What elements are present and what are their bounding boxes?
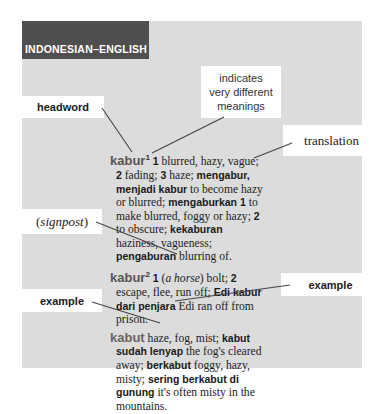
translation-text: escape, flee, run off; [116,286,214,299]
bold-term: berkabut [147,359,191,371]
translation-text: to obscure; [116,223,170,236]
signpost-word: signpost [40,214,83,230]
callout-example-right: example [281,273,380,296]
callout-translation-label: translation [304,133,359,149]
bold-term: kekaburan [170,223,223,235]
entry-kabur-2: kabur2 1 (a horse) bolt; 2 escape, flee,… [110,268,266,327]
callout-headword: headword [22,96,104,118]
translation-text: fading; [122,169,161,182]
callout-headword-label: headword [37,101,89,113]
entry-headword: kabut [110,330,145,345]
entry-headword: kabur2 [110,270,150,285]
dictionary-entries: kabur1 1 blurred, hazy, vague; 2 fading;… [110,151,266,414]
translation-text: haze, fog, mist; [148,332,222,345]
bold-term: pengaburan [116,250,176,262]
translation-text: ) bolt; [200,272,231,285]
callout-example-right-label: example [308,279,352,291]
translation-text: blurred, hazy, vague; [159,155,259,168]
callout-example-left: example [22,289,102,312]
callout-translation: translation [283,125,380,156]
callout-indicates-line3: meanings [217,99,265,113]
callout-signpost: (signpost) [22,209,102,234]
bold-term: 2 [254,210,260,222]
callout-indicates: indicates very different meanings [201,66,281,118]
callout-example-left-label: example [40,295,84,307]
callout-indicates-line1: indicates [219,71,262,85]
translation-text: haziness, vagueness; [116,237,212,250]
section-header-title: INDONESIAN–ENGLISH [25,43,147,55]
callout-indicates-line2: very different [209,85,272,99]
signpost-close-paren: ) [84,214,88,230]
entry-body: 1 blurred, hazy, vague; 2 fading; 3 haze… [116,155,263,263]
entry-kabur-1: kabur1 1 blurred, hazy, vague; 2 fading;… [110,151,266,264]
entry-headword: kabur1 [110,153,150,168]
bold-term: mengaburkan 1 [168,196,246,208]
bold-term: 2 [231,272,237,284]
signpost-text: a horse [165,272,199,285]
entry-kabut: kabut haze, fog, mist; kabut sudah lenya… [110,331,266,414]
translation-text: blurring of. [176,250,232,263]
translation-text: haze; [166,169,196,182]
